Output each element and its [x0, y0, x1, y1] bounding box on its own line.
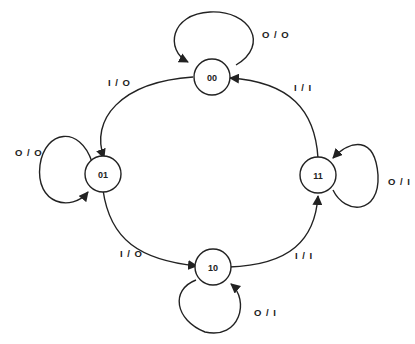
state-11-label: 11: [313, 171, 323, 181]
label-10-self: O / I: [254, 307, 277, 318]
state-10: 10: [195, 249, 231, 285]
state-diagram: 00 01 10 11 O / O I / O O / O I / O O / …: [0, 0, 415, 344]
label-00-self: O / O: [262, 29, 290, 40]
state-11: 11: [300, 157, 336, 193]
edge-10-self: [179, 280, 240, 333]
label-01-to-10: I / O: [120, 248, 143, 259]
label-01-self: O / O: [15, 147, 43, 158]
label-11-to-00: I / I: [294, 82, 312, 93]
edge-00-self: [174, 12, 253, 65]
edge-11-self: [333, 145, 378, 208]
state-10-label: 10: [208, 263, 218, 273]
label-10-to-11: I / I: [295, 250, 313, 261]
edge-01-self: [40, 136, 92, 202]
edge-01-to-10: [103, 190, 197, 266]
label-11-self: O / I: [388, 176, 411, 187]
edge-00-to-01: [101, 77, 193, 158]
label-00-to-01: I / O: [108, 77, 131, 88]
state-00-label: 00: [207, 73, 217, 83]
state-01: 01: [85, 156, 121, 192]
state-00: 00: [194, 59, 230, 95]
state-01-label: 01: [98, 170, 108, 180]
